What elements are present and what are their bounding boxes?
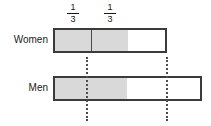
row-label-women: Women: [0, 34, 48, 46]
bar-women-segment-3: [128, 30, 165, 51]
fraction-denominator: 3: [62, 15, 84, 24]
bar-men-segment-filled: [55, 78, 127, 99]
fraction-denominator: 3: [99, 15, 121, 24]
bar-women: [53, 28, 167, 53]
fraction-label-second: 1 3: [99, 3, 121, 24]
bar-women-segment-2: [92, 30, 129, 51]
fraction-label-first: 1 3: [62, 3, 84, 24]
fraction-numerator: 1: [99, 3, 121, 13]
bar-men-segment-empty: [127, 78, 200, 99]
fraction-numerator: 1: [62, 3, 84, 13]
bar-women-segment-1: [55, 30, 92, 51]
guide-line-one-third: [86, 57, 88, 121]
row-label-men: Men: [0, 82, 48, 94]
bar-men: [53, 76, 202, 101]
guide-line-women-bar-end: [166, 57, 168, 121]
diagram-canvas: 1 3 1 3 Women Men: [0, 0, 211, 126]
